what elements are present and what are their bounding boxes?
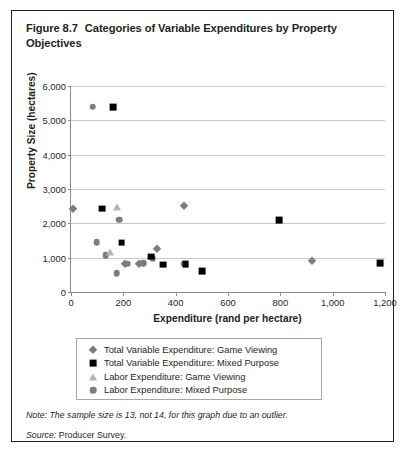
legend-label: Labor Expenditure: Mixed Purpose: [104, 385, 247, 395]
y-gridline: [71, 223, 385, 224]
y-tick-mark: [68, 155, 72, 156]
x-tick-label: 400: [168, 297, 184, 308]
data-point: [89, 103, 96, 110]
legend-label: Total Variable Expenditure: Game Viewing: [104, 345, 277, 355]
x-tick-label: 600: [220, 297, 236, 308]
data-point: [179, 202, 188, 211]
y-gridline: [71, 258, 385, 259]
y-tick-label: 3,000: [43, 184, 66, 195]
x-tick-label: 1,200: [373, 297, 396, 308]
source-body: Producer Survey.: [59, 430, 126, 440]
legend-marker-diamond-icon: [87, 344, 99, 356]
figure-note: Note: The sample size is 13, not 14, for…: [26, 410, 288, 420]
legend-label: Labor Expenditure: Game Viewing: [104, 372, 245, 382]
x-tick-mark: [176, 292, 177, 296]
data-point: [98, 205, 105, 212]
source-label: Source:: [26, 430, 56, 440]
data-point: [116, 216, 123, 223]
data-point: [69, 205, 78, 214]
x-tick-label: 200: [116, 297, 132, 308]
chart-legend: Total Variable Expenditure: Game Viewing…: [76, 338, 322, 400]
data-point: [113, 203, 121, 210]
data-point: [109, 104, 116, 111]
data-point: [376, 260, 383, 267]
x-tick-mark: [228, 292, 229, 296]
diamond-marker-icon: [89, 345, 98, 354]
data-point: [93, 239, 100, 246]
note-label: Note:: [26, 410, 47, 420]
x-tick-mark: [385, 292, 386, 296]
y-axis-title: Property Size (hectares): [26, 72, 37, 189]
y-tick-mark: [68, 258, 72, 259]
data-point: [147, 253, 154, 260]
data-point: [276, 216, 283, 223]
figure-container: Figure 8.7Categories of Variable Expendi…: [11, 10, 394, 442]
legend-marker-triangle-icon: [87, 371, 99, 383]
y-tick-mark: [68, 189, 72, 190]
y-gridline: [71, 155, 385, 156]
y-tick-label: 0: [61, 287, 66, 298]
data-point: [118, 239, 125, 246]
figure-source: Source: Producer Survey.: [26, 430, 126, 440]
x-tick-label: 800: [273, 297, 289, 308]
data-point: [153, 245, 162, 254]
figure-title: Figure 8.7Categories of Variable Expendi…: [26, 21, 378, 51]
legend-marker-square-icon: [87, 357, 99, 369]
legend-label: Total Variable Expenditure: Mixed Purpos…: [104, 358, 279, 368]
y-gridline: [71, 86, 385, 87]
x-tick-label: 1,000: [321, 297, 344, 308]
square-marker-icon: [90, 360, 97, 367]
data-point: [198, 268, 205, 275]
legend-marker-circle-icon: [87, 384, 99, 396]
legend-item: Total Variable Expenditure: Mixed Purpos…: [77, 357, 321, 371]
circle-marker-icon: [90, 387, 97, 394]
x-axis-title: Expenditure (rand per hectare): [70, 313, 385, 324]
data-point: [113, 270, 120, 277]
y-tick-label: 1,000: [43, 252, 66, 263]
legend-item: Labor Expenditure: Mixed Purpose: [77, 384, 321, 398]
y-tick-label: 4,000: [43, 149, 66, 160]
plot-area: 01,0002,0003,0004,0005,0006,000020040060…: [70, 86, 385, 293]
x-tick-mark: [333, 292, 334, 296]
data-point: [182, 260, 189, 267]
data-point: [106, 249, 114, 256]
y-tick-label: 5,000: [43, 115, 66, 126]
y-tick-mark: [68, 120, 72, 121]
y-tick-mark: [68, 223, 72, 224]
y-tick-label: 6,000: [43, 81, 66, 92]
data-point: [160, 261, 167, 268]
legend-item: Labor Expenditure: Game Viewing: [77, 370, 321, 384]
x-tick-mark: [280, 292, 281, 296]
x-tick-mark: [71, 292, 72, 296]
triangle-marker-icon: [89, 373, 97, 380]
legend-item: Total Variable Expenditure: Game Viewing: [77, 343, 321, 357]
y-gridline: [71, 189, 385, 190]
figure-number: Figure 8.7: [26, 22, 78, 34]
note-body: The sample size is 13, not 14, for this …: [49, 410, 287, 420]
y-gridline: [71, 120, 385, 121]
y-tick-mark: [68, 86, 72, 87]
x-tick-mark: [123, 292, 124, 296]
y-tick-label: 2,000: [43, 218, 66, 229]
x-tick-label: 0: [68, 297, 73, 308]
